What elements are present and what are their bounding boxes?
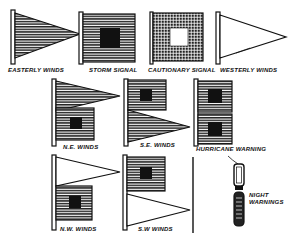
cautionary-signal-flag — [150, 12, 203, 64]
label-sw-winds: S.W Winds — [138, 226, 173, 232]
label-cautionary-signal: Cautionary Signal — [148, 67, 216, 73]
hurricane-warning-flag — [194, 79, 232, 146]
label-hurricane-warning: Hurricane Warning — [196, 146, 266, 152]
label-se-winds: S.E. Winds — [140, 142, 175, 148]
label-warnings: Warnings — [249, 199, 284, 205]
nw-winds-flag — [52, 155, 120, 230]
label-night: Night — [249, 192, 269, 198]
storm-signal-flag — [79, 12, 135, 64]
sw-winds-flag — [123, 155, 190, 230]
label-ne-winds: N.E. Winds — [63, 144, 98, 150]
label-storm-signal: Storm Signal — [89, 67, 137, 73]
flags-drawing — [0, 0, 297, 246]
storm-signal-flags-illustration: Easterly Winds Storm Signal Cautionary S… — [0, 0, 297, 246]
se-winds-flag — [124, 79, 190, 146]
westerly-winds-flag — [216, 12, 286, 64]
label-westerly-winds: Westerly Winds — [220, 67, 277, 73]
label-nw-winds: N.W. Winds — [60, 226, 97, 232]
ne-winds-flag — [52, 79, 120, 146]
label-easterly-winds: Easterly Winds — [8, 67, 64, 73]
easterly-winds-flag — [11, 10, 80, 64]
night-warnings-lanterns — [193, 156, 244, 233]
